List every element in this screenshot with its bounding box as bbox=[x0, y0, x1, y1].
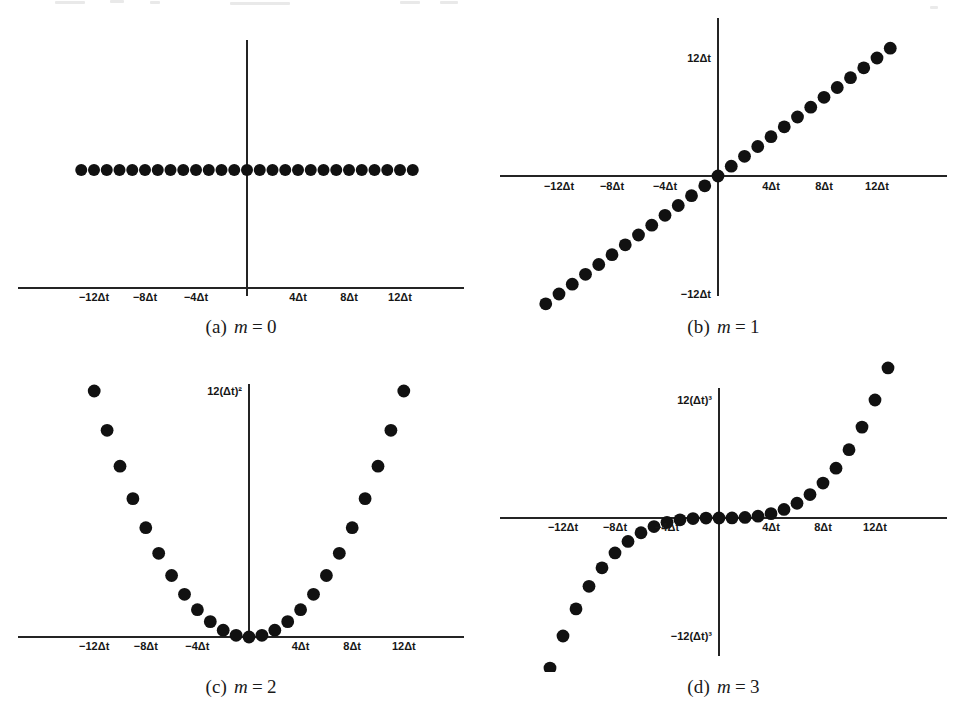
y-axis-label: 12Δt bbox=[687, 52, 711, 64]
data-point bbox=[606, 248, 619, 261]
panel-c-plot: −12Δt−8Δt−4Δt4Δt8Δt12Δt12(Δt)² bbox=[0, 360, 482, 672]
x-tick-label: 12Δt bbox=[388, 291, 412, 303]
data-point bbox=[75, 164, 87, 176]
panel-b-caption-label: (b) bbox=[687, 316, 710, 337]
x-tick-label: 12Δt bbox=[863, 521, 887, 533]
data-point bbox=[645, 219, 658, 232]
data-point bbox=[359, 492, 372, 505]
data-point bbox=[372, 460, 385, 473]
panel-b: −12Δt−8Δt−4Δt4Δt8Δt12Δt12Δt−12Δt (b)m=1 bbox=[482, 0, 965, 360]
data-point bbox=[139, 521, 152, 534]
data-point bbox=[281, 615, 294, 628]
data-point bbox=[178, 588, 191, 601]
x-tick-label: 12Δt bbox=[865, 180, 889, 192]
data-point bbox=[843, 443, 856, 456]
panel-a-caption-label: (a) bbox=[205, 316, 227, 337]
panel-b-plot: −12Δt−8Δt−4Δt4Δt8Δt12Δt12Δt−12Δt bbox=[482, 0, 965, 312]
data-point bbox=[320, 569, 333, 582]
data-point bbox=[622, 535, 635, 548]
data-point bbox=[817, 477, 830, 490]
x-tick-label: 12Δt bbox=[392, 640, 416, 652]
data-point bbox=[343, 164, 355, 176]
panel-a-axes: −12Δt−8Δt−4Δt4Δt8Δt12Δt bbox=[0, 0, 482, 312]
data-point bbox=[726, 512, 739, 525]
data-point bbox=[778, 120, 791, 133]
data-point bbox=[191, 603, 204, 616]
data-point bbox=[369, 164, 381, 176]
data-point bbox=[583, 580, 596, 593]
panel-c-caption-variable: m bbox=[227, 676, 248, 697]
x-tick-label: −12Δt bbox=[548, 521, 579, 533]
data-point bbox=[204, 615, 217, 628]
x-tick-label: 4Δt bbox=[292, 640, 310, 652]
panel-c-axes: −12Δt−8Δt−4Δt4Δt8Δt12Δt12(Δt)² bbox=[0, 360, 482, 672]
panel-b-caption-value: 1 bbox=[750, 316, 760, 337]
data-point bbox=[165, 569, 178, 582]
data-point bbox=[294, 603, 307, 616]
x-tick-label: −12Δt bbox=[544, 180, 575, 192]
panel-a-caption-variable: m bbox=[227, 316, 248, 337]
y-axis-label: −12(Δt)³ bbox=[671, 630, 713, 642]
data-point bbox=[152, 164, 164, 176]
data-point bbox=[126, 164, 138, 176]
data-point bbox=[330, 164, 342, 176]
data-point bbox=[152, 547, 165, 560]
x-tick-label: 8Δt bbox=[814, 521, 832, 533]
data-point bbox=[407, 164, 419, 176]
data-point bbox=[857, 61, 870, 74]
figure-panel-grid: −12Δt−8Δt−4Δt4Δt8Δt12Δt (a)m=0 −12Δt−8Δt… bbox=[0, 0, 965, 720]
data-point bbox=[243, 631, 256, 644]
data-point bbox=[139, 164, 151, 176]
x-tick-label: −12Δt bbox=[79, 640, 110, 652]
panel-c-caption: (c)m=2 bbox=[0, 676, 482, 698]
data-point bbox=[544, 662, 557, 672]
data-point bbox=[830, 462, 843, 475]
data-point bbox=[844, 71, 857, 84]
y-axis-label: −12Δt bbox=[681, 288, 712, 300]
data-point bbox=[804, 488, 817, 501]
data-point bbox=[394, 164, 406, 176]
x-tick-label: −4Δt bbox=[184, 291, 208, 303]
x-tick-label: −8Δt bbox=[603, 521, 627, 533]
data-point bbox=[101, 164, 113, 176]
data-point bbox=[700, 512, 713, 525]
panel-d: −12Δt−8Δt−4Δt4Δt8Δt12Δt12(Δt)³−12(Δt)³ (… bbox=[482, 360, 965, 720]
data-point bbox=[217, 624, 230, 637]
data-point bbox=[635, 526, 648, 539]
data-point bbox=[268, 624, 281, 637]
data-point bbox=[539, 297, 552, 310]
data-point bbox=[557, 630, 570, 643]
data-point bbox=[713, 512, 726, 525]
panel-d-caption-label: (d) bbox=[687, 676, 710, 697]
panel-d-caption-equals: = bbox=[731, 676, 750, 697]
panel-b-caption-equals: = bbox=[731, 316, 750, 337]
x-tick-label: 4Δt bbox=[762, 180, 780, 192]
data-point bbox=[88, 164, 100, 176]
y-axis-label: 12(Δt)² bbox=[207, 385, 242, 397]
x-tick-label: −8Δt bbox=[134, 640, 158, 652]
data-point bbox=[356, 164, 368, 176]
data-point bbox=[228, 164, 240, 176]
data-point bbox=[101, 424, 114, 437]
panel-b-caption-variable: m bbox=[710, 316, 731, 337]
panel-a-caption-value: 0 bbox=[267, 316, 277, 337]
data-point bbox=[346, 521, 359, 534]
x-tick-label: 4Δt bbox=[289, 291, 307, 303]
data-point bbox=[305, 164, 317, 176]
data-point bbox=[126, 492, 139, 505]
data-point bbox=[804, 101, 817, 114]
data-point bbox=[751, 140, 764, 153]
data-point bbox=[385, 424, 398, 437]
data-point bbox=[397, 385, 410, 398]
data-point bbox=[609, 547, 622, 560]
panel-d-plot: −12Δt−8Δt−4Δt4Δt8Δt12Δt12(Δt)³−12(Δt)³ bbox=[482, 360, 965, 672]
data-point bbox=[114, 460, 127, 473]
data-point bbox=[831, 81, 844, 94]
data-point bbox=[596, 561, 609, 574]
panel-d-caption: (d)m=3 bbox=[482, 676, 965, 698]
x-tick-label: −4Δt bbox=[185, 640, 209, 652]
data-point bbox=[818, 91, 831, 104]
data-point bbox=[553, 288, 566, 301]
data-point bbox=[592, 258, 605, 271]
data-point bbox=[254, 164, 266, 176]
